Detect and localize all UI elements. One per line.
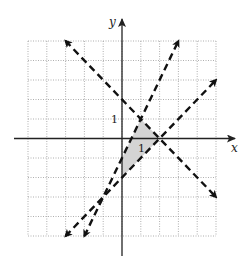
coordinate-graph: x y 1 1 [0,0,247,262]
x-axis-label: x [231,141,238,155]
y-tick-label-1: 1 [111,113,118,126]
x-tick-label-1: 1 [138,142,145,155]
y-axis-label: y [108,15,116,29]
